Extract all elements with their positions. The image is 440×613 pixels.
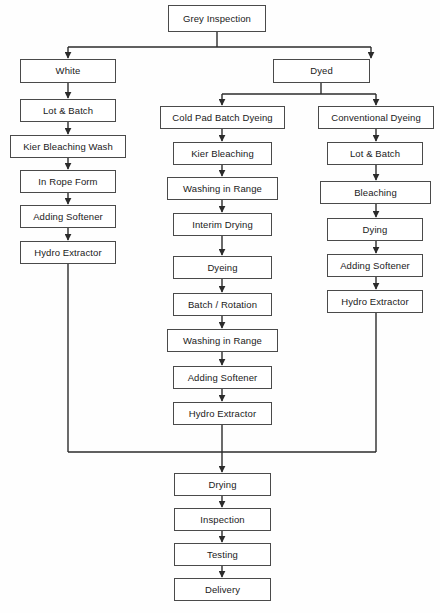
- node-grey-inspection[interactable]: Grey Inspection: [168, 5, 266, 32]
- node-left-kier-bleaching-wash[interactable]: Kier Bleaching Wash: [10, 135, 126, 158]
- node-dyed[interactable]: Dyed: [273, 59, 370, 83]
- node-right-lot-batch[interactable]: Lot & Batch: [327, 142, 423, 165]
- node-mid-washing-in-range-2[interactable]: Washing in Range: [167, 329, 278, 352]
- node-drying[interactable]: Drying: [174, 473, 271, 496]
- node-conventional-dyeing[interactable]: Conventional Dyeing: [318, 106, 434, 129]
- node-mid-batch-rotation[interactable]: Batch / Rotation: [173, 293, 272, 316]
- node-mid-interim-drying[interactable]: Interim Drying: [173, 213, 272, 236]
- node-mid-hydro-extractor[interactable]: Hydro Extractor: [173, 402, 272, 425]
- node-inspection[interactable]: Inspection: [174, 508, 271, 531]
- node-right-adding-softener[interactable]: Adding Softener: [327, 254, 423, 277]
- node-left-hydro-extractor[interactable]: Hydro Extractor: [20, 241, 116, 264]
- node-mid-dyeing[interactable]: Dyeing: [173, 256, 272, 279]
- node-white[interactable]: White: [20, 59, 116, 83]
- node-mid-adding-softener[interactable]: Adding Softener: [173, 366, 272, 389]
- node-mid-kier-bleaching[interactable]: Kier Bleaching: [173, 142, 272, 165]
- node-cold-pad-batch-dyeing[interactable]: Cold Pad Batch Dyeing: [160, 106, 285, 129]
- node-testing[interactable]: Testing: [174, 543, 271, 566]
- node-right-hydro-extractor[interactable]: Hydro Extractor: [327, 290, 423, 313]
- node-right-dying[interactable]: Dying: [327, 218, 423, 241]
- node-left-in-rope-form[interactable]: In Rope Form: [20, 170, 116, 193]
- flowchart-canvas: Grey Inspection White Dyed Lot & Batch K…: [0, 0, 440, 613]
- node-right-bleaching[interactable]: Bleaching: [320, 181, 431, 204]
- node-left-adding-softener[interactable]: Adding Softener: [20, 205, 116, 228]
- node-mid-washing-in-range-1[interactable]: Washing in Range: [167, 177, 278, 200]
- node-left-lot-batch[interactable]: Lot & Batch: [20, 99, 116, 122]
- node-delivery[interactable]: Delivery: [174, 578, 271, 601]
